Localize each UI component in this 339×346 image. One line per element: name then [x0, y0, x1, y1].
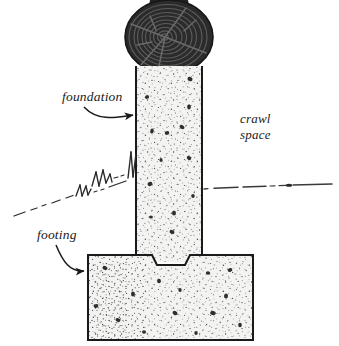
grass-tuft	[128, 152, 136, 178]
post-outline	[125, 0, 213, 74]
footing-label: footing	[37, 227, 77, 242]
grade-line-right	[204, 184, 332, 189]
footing-callout: footing	[37, 227, 84, 271]
foundation-wall	[136, 66, 202, 262]
crawl-space-label-line1: crawl	[240, 111, 271, 126]
foundation-cross-section-diagram: foundation footing crawl space	[0, 0, 339, 346]
foundation-callout: foundation	[62, 89, 133, 118]
footing-left-dense-texture	[88, 255, 146, 346]
diagram-canvas: foundation footing crawl space	[0, 0, 339, 346]
wood-post-end-grain	[125, 0, 213, 74]
footing-callout-arrow	[56, 245, 84, 271]
foundation-label: foundation	[62, 89, 123, 104]
crawl-space-label: crawl space	[240, 111, 271, 142]
grass-tuft	[76, 185, 91, 196]
crawl-space-label-line2: space	[240, 127, 271, 142]
grade-line-left	[14, 152, 136, 216]
foundation-wall-fill-dense	[136, 66, 202, 262]
grass-tuft	[92, 170, 112, 186]
foundation-callout-arrow	[84, 107, 133, 118]
concrete-footing	[88, 255, 253, 346]
